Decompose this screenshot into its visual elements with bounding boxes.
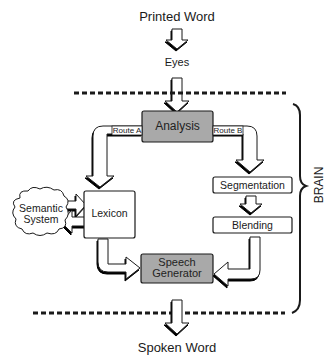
eyes-to-analysis-arrow xyxy=(165,78,189,112)
lexicon-to-speech-arrow xyxy=(98,239,140,279)
brain-brace xyxy=(292,104,306,313)
brain-label: BRAIN xyxy=(312,163,326,207)
route-b-label: Route B xyxy=(213,126,243,135)
blending-to-speech-arrow xyxy=(214,237,260,286)
speech-generator-label: Speech Generator xyxy=(141,257,213,279)
segmentation-to-blending-arrow xyxy=(240,196,262,213)
segmentation-label: Segmentation xyxy=(213,180,292,191)
semantic-line-2: System xyxy=(16,214,66,225)
semantic-system-label: Semantic System xyxy=(16,203,66,225)
lexicon-label: Lexicon xyxy=(84,208,135,219)
output-label: Spoken Word xyxy=(117,340,237,355)
analysis-label: Analysis xyxy=(142,119,213,133)
input-arrow xyxy=(166,29,188,49)
blending-label: Blending xyxy=(213,220,292,231)
speech-line-2: Generator xyxy=(141,268,213,279)
route-a-label: Route A xyxy=(112,126,142,135)
speech-to-output-arrow xyxy=(165,300,189,334)
input-label: Printed Word xyxy=(117,9,237,24)
eyes-label: Eyes xyxy=(147,56,207,68)
